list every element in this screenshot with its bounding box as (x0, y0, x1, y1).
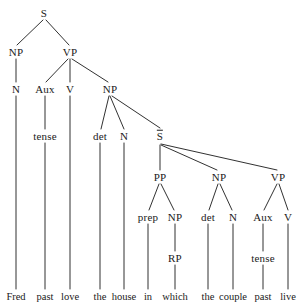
tree-node-n3: N (229, 212, 237, 223)
tree-edge-np2-to-sbar (112, 96, 160, 128)
syntax-tree-figure: SNPVPNAuxVNPtensedetNSPPNPVPprepNPdetNAu… (0, 0, 304, 305)
tree-branch-lines (16, 20, 288, 289)
tree-node-np2: NP (103, 84, 117, 95)
tree-edge-vp2-to-aux2 (264, 184, 277, 210)
tree-node-v1: V (66, 84, 74, 95)
tree-leaf-word: the (94, 292, 107, 303)
tree-node-np4: NP (168, 212, 182, 223)
tree-edge-s-to-np1 (17, 20, 43, 45)
tree-node-det1: det (93, 131, 107, 142)
tree-node-n2: N (120, 131, 128, 142)
tree-edge-vp1-to-aux1 (46, 59, 68, 82)
tree-leaf-word: house (112, 292, 137, 303)
tree-leaf-word: live (280, 292, 296, 303)
tree-node-np1: NP (9, 47, 23, 58)
tree-node-n1: N (12, 84, 20, 95)
tree-edge-sbar-to-vp2 (161, 144, 277, 170)
tree-edge-np2-to-det1 (101, 96, 109, 129)
tree-node-prep: prep (138, 212, 158, 223)
tree-node-tense1: tense (33, 131, 57, 142)
tree-leaf-word: which (162, 292, 188, 303)
tree-node-np3: NP (212, 172, 226, 183)
tree-node-rp: RP (168, 253, 182, 264)
tree-node-aux1: Aux (35, 84, 55, 95)
tree-node-vp1: VP (63, 47, 77, 58)
tree-node-s: S (41, 8, 47, 19)
tree-edge-vp2-to-v2 (279, 184, 288, 210)
tree-node-vp2: VP (271, 172, 285, 183)
tree-leaf-word: past (255, 292, 272, 303)
tree-leaf-word: in (144, 292, 152, 303)
tree-node-tense2: tense (251, 253, 275, 264)
tree-edge-np3-to-det2 (209, 184, 218, 210)
tree-edge-np3-to-n3 (220, 184, 232, 210)
tree-node-v2: V (284, 212, 292, 223)
tree-node-pp: PP (154, 172, 167, 183)
tree-edge-sbar-to-np3 (161, 145, 217, 170)
tree-node-sbar: S (157, 130, 163, 143)
tree-leaf-word: love (61, 292, 79, 303)
tree-leaf-word: couple (219, 292, 247, 303)
tree-leaf-word: the (202, 292, 215, 303)
tree-edge-pp-to-np4 (161, 184, 174, 210)
tree-node-aux2: Aux (253, 212, 273, 223)
tree-leaf-word: past (37, 292, 54, 303)
tree-edge-np2-to-n2 (110, 96, 124, 129)
tree-edge-s-to-vp1 (46, 20, 69, 45)
node-overline-text: S (157, 130, 163, 143)
tree-edge-pp-to-prep (149, 184, 159, 210)
tree-edge-vp1-to-np2 (72, 59, 108, 82)
tree-leaf-word: Fred (6, 292, 25, 303)
tree-node-det2: det (201, 212, 215, 223)
